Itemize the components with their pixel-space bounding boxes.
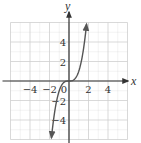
y-tick-label: 4 (60, 37, 66, 48)
x-tick-label: 4 (105, 84, 111, 95)
y-tick-label: 2 (60, 57, 66, 68)
cubic-function-graph: −4−202442−2−4 x y (0, 0, 141, 143)
y-tick-label: −2 (51, 96, 66, 107)
y-axis-label: y (64, 0, 71, 13)
x-tick-label: 2 (85, 84, 91, 95)
x-tick-label: −2 (42, 84, 57, 95)
x-tick-label: −4 (23, 84, 38, 95)
x-axis-label: x (130, 74, 137, 88)
